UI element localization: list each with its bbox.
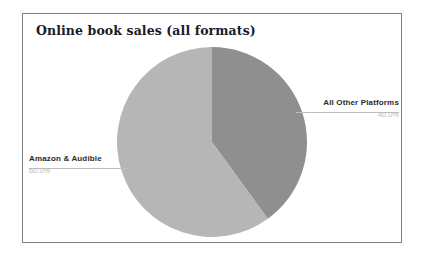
slice-label-all-other-platforms: All Other Platforms 40.0% (311, 98, 399, 120)
pie-chart-svg (117, 47, 307, 237)
chart-title: Online book sales (all formats) (36, 23, 256, 38)
pie-chart (117, 47, 307, 237)
slice-label-amazon-audible: Amazon & Audible 60.0% (29, 154, 125, 176)
slice-label-name-all-other-platforms: All Other Platforms (311, 98, 399, 108)
chart-canvas: Online book sales (all formats) All Othe… (0, 0, 422, 262)
slice-label-pct-amazon-audible: 60.0% (29, 166, 125, 176)
slice-label-pct-all-other-platforms: 40.0% (311, 110, 399, 120)
slice-label-name-amazon-audible: Amazon & Audible (29, 154, 125, 164)
